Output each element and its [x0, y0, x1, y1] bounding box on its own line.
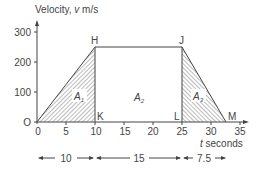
- point-label-j: J: [179, 35, 184, 46]
- point-label-k: K: [97, 111, 104, 122]
- x-tick-label-25: 25: [176, 126, 188, 137]
- svg-text:15: 15: [133, 153, 145, 164]
- x-tick-label-30: 30: [205, 126, 217, 137]
- svg-text:10: 10: [60, 153, 72, 164]
- x-tick-label-0: 0: [35, 126, 41, 137]
- y-tick-label-100: 100: [14, 87, 31, 98]
- point-label-h: H: [91, 35, 98, 46]
- interval-3: 7.5: [183, 153, 226, 164]
- y-axis-arrow: [35, 20, 39, 26]
- area-label-a2: A2: [133, 92, 145, 104]
- interval-2: 15: [96, 153, 181, 164]
- svg-text:7.5: 7.5: [197, 153, 211, 164]
- x-axis-label: t seconds: [200, 138, 243, 149]
- point-label-l: L: [174, 111, 180, 122]
- y-axis-label: Velocity, v m/s: [35, 4, 98, 15]
- x-tick-label-15: 15: [119, 126, 131, 137]
- y-tick-label-200: 200: [14, 57, 31, 68]
- x-tick-label-5: 5: [63, 126, 69, 137]
- interval-1: 10: [38, 153, 94, 164]
- x-tick-label-35: 35: [234, 126, 246, 137]
- origin-label: O: [23, 117, 31, 128]
- point-label-m: M: [228, 111, 236, 122]
- x-tick-label-20: 20: [147, 126, 159, 137]
- x-tick-label-10: 10: [90, 126, 102, 137]
- x-axis-arrow: [243, 120, 249, 124]
- y-tick-label-300: 300: [14, 27, 31, 38]
- velocity-time-graph: Velocity, v m/s t seconds 300 200 100 O …: [0, 0, 262, 171]
